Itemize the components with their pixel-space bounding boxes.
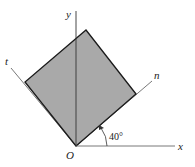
rotated-square-diagram: y x t n O 40° (0, 0, 195, 167)
angle-label: 40° (109, 131, 123, 142)
angle-arc (101, 128, 107, 146)
origin-label: O (66, 149, 74, 161)
stress-element-square (25, 30, 136, 146)
y-axis-label: y (65, 8, 71, 20)
x-axis-label: x (177, 140, 183, 152)
diagram-canvas: y x t n O 40° (0, 0, 195, 167)
n-axis-label: n (154, 69, 160, 81)
t-axis-label: t (5, 55, 9, 67)
